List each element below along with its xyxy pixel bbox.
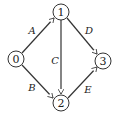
edge-b: [22, 65, 53, 98]
edge-label-e: E: [83, 84, 92, 95]
edge-e: [68, 67, 97, 98]
node-label-1: 1: [58, 6, 65, 19]
node-2: 2: [53, 95, 69, 111]
edge-label-a: A: [27, 25, 35, 36]
edge-d: [67, 18, 97, 54]
graph-diagram: A B C D E 0 1 2 3: [0, 0, 120, 118]
edge-a: [22, 18, 54, 53]
edge-label-b: B: [27, 82, 35, 93]
node-label-2: 2: [58, 97, 65, 110]
node-1: 1: [53, 4, 69, 20]
node-3: 3: [95, 53, 111, 69]
node-label-0: 0: [13, 53, 20, 66]
node-0: 0: [8, 51, 24, 67]
node-label-3: 3: [100, 55, 107, 68]
edge-label-d: D: [84, 25, 93, 36]
edge-label-c: C: [51, 55, 59, 66]
